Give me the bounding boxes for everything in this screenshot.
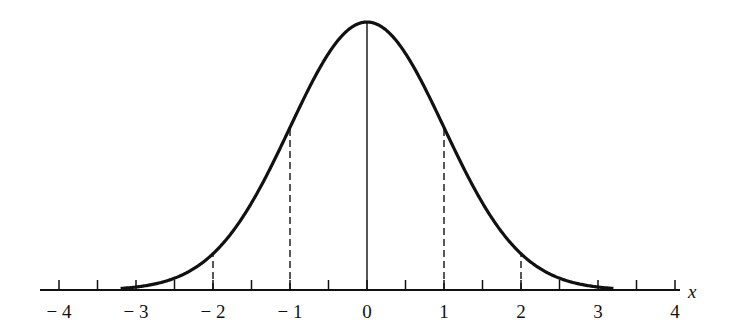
x-axis-label: x — [687, 281, 697, 302]
x-tick-label: 0 — [362, 301, 372, 322]
x-tick-label: − 3 — [124, 301, 149, 322]
normal-distribution-chart: − 4− 3− 2− 101234 x — [0, 0, 734, 333]
x-tick-label: 1 — [439, 301, 449, 322]
x-tick-label: − 1 — [278, 301, 303, 322]
x-tick-labels: − 4− 3− 2− 101234 — [47, 301, 681, 322]
reference-lines — [213, 22, 521, 290]
x-tick-label: 3 — [593, 301, 603, 322]
x-tick-label: − 4 — [47, 301, 72, 322]
x-tick-label: − 2 — [201, 301, 226, 322]
x-tick-label: 4 — [670, 301, 680, 322]
x-tick-label: 2 — [516, 301, 526, 322]
